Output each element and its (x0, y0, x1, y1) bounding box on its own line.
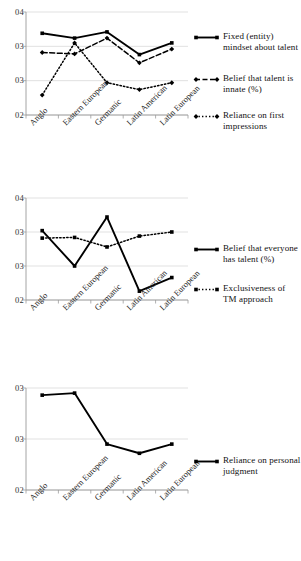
chart-panel-1: 04030302 AngloEastern EuropeanGermanicLa… (0, 0, 301, 185)
x-axis-labels-1: AngloEastern EuropeanGermanicLatin Ameri… (0, 0, 195, 185)
x-tick-label: Anglo (28, 291, 49, 312)
legend-entry: Reliance on first impressions (193, 110, 301, 131)
legend-key-solid-line-icon (193, 244, 220, 255)
chart-panel-2: 04030302 AngloEastern EuropeanGermanicLa… (0, 185, 301, 370)
legend-entry: Fixed (entity) mindset about talent (193, 31, 301, 52)
plot-area-3: 030302 AngloEastern EuropeanGermanicLati… (0, 373, 195, 561)
x-tick-label: Germanic (93, 472, 123, 502)
legend-entry: Belief that talent is innate (%) (193, 73, 301, 94)
legend-label: Fixed (entity) mindset about talent (223, 31, 301, 52)
x-axis-labels-2: AngloEastern EuropeanGermanicLatin Ameri… (0, 185, 195, 370)
legend-label: Belief that everyone has talent (%) (223, 243, 301, 264)
legend-2: Belief that everyone has talent (%)Exclu… (193, 185, 301, 370)
legend-key-solid-line-icon (193, 456, 220, 467)
plot-area-2: 04030302 AngloEastern EuropeanGermanicLa… (0, 185, 195, 370)
chart-panel-3: 030302 AngloEastern EuropeanGermanicLati… (0, 373, 301, 561)
legend-3: Reliance on personal judgment (193, 373, 301, 561)
legend-key-dotted-line-icon (193, 284, 220, 295)
legend-key-dotted-line-icon (193, 111, 220, 122)
legend-entry: Exclusiveness of TM approach (193, 283, 301, 304)
x-tick-label: Germanic (93, 282, 123, 312)
legend-entry: Belief that everyone has talent (%) (193, 243, 301, 264)
x-tick-label: Anglo (28, 106, 49, 127)
legend-entry: Reliance on personal judgment (193, 455, 301, 476)
legend-key-dashed-line-icon (193, 74, 220, 85)
x-tick-label: Germanic (93, 97, 123, 127)
legend-label: Belief that talent is innate (%) (223, 73, 301, 94)
legend-label: Exclusiveness of TM approach (223, 283, 301, 304)
plot-area-1: 04030302 AngloEastern EuropeanGermanicLa… (0, 0, 195, 185)
legend-1: Fixed (entity) mindset about talentBelie… (193, 0, 301, 185)
legend-label: Reliance on personal judgment (223, 455, 301, 476)
x-tick-label: Anglo (28, 481, 49, 502)
x-axis-labels-3: AngloEastern EuropeanGermanicLatin Ameri… (0, 373, 195, 561)
legend-key-solid-line-icon (193, 32, 220, 43)
legend-label: Reliance on first impressions (223, 110, 301, 131)
